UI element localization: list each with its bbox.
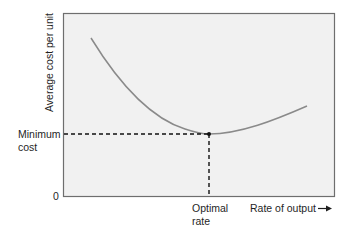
origin-zero-label: 0: [53, 190, 59, 202]
average-cost-chart: Average cost per unit Minimum cost 0 Opt…: [0, 0, 351, 233]
plot-area: [64, 14, 335, 197]
x-axis-label: Rate of output: [250, 202, 316, 214]
optimal-rate-label-line2: rate: [192, 215, 210, 227]
minimum-cost-label-line1: Minimum: [18, 128, 61, 140]
optimal-rate-label-line1: Optimal: [192, 202, 228, 214]
x-axis-arrow-icon: [318, 206, 332, 212]
y-axis-label: Average cost per unit: [43, 13, 55, 112]
minimum-cost-label-line2: cost: [18, 141, 37, 153]
minimum-point: [207, 132, 211, 136]
